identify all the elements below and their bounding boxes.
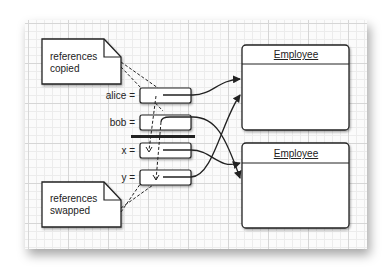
employee-1-title: Employee [242, 49, 350, 60]
note-swapped-line1: references [50, 193, 97, 205]
label-y: y = [95, 172, 135, 183]
note-swapped-text: references swapped [50, 193, 97, 217]
separator-bar [131, 135, 195, 138]
dashed-leaders-copied [121, 62, 163, 111]
employee-2-title: Employee [242, 148, 350, 159]
note-copied-line1: references [50, 51, 97, 63]
note-swapped-line2: swapped [50, 205, 97, 217]
note-copied-line2: copied [50, 63, 97, 75]
label-alice: alice = [95, 90, 135, 101]
diagram-shapes [0, 0, 386, 267]
label-bob: bob = [95, 117, 135, 128]
label-x: x = [95, 145, 135, 156]
note-copied-text: references copied [50, 51, 97, 75]
